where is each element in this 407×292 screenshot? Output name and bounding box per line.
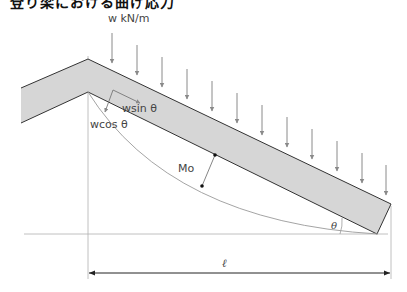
moment-label: Mo — [178, 162, 194, 175]
wcos-label: wcos θ — [90, 118, 128, 131]
load-label: w kN/m — [108, 12, 150, 25]
beam — [21, 59, 391, 234]
wsin-label: wsin θ — [122, 102, 157, 115]
moment-indicator — [200, 153, 217, 188]
moment-point-beam — [213, 153, 217, 157]
span-label: ℓ — [222, 257, 227, 270]
angle-arc — [340, 218, 342, 234]
left-beam-segment — [21, 59, 88, 123]
angle-label: θ — [331, 220, 337, 231]
inclined-beam-diagram: w kN/m wsin θ wcos θ Mo θ ℓ — [0, 0, 407, 292]
moment-point-curve — [200, 184, 204, 188]
